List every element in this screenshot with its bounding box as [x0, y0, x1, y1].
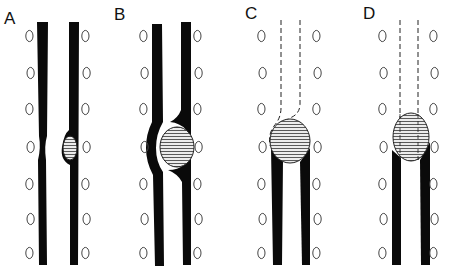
cell-icon: [430, 30, 437, 41]
cell-icon: [194, 30, 201, 41]
cell-icon: [194, 178, 201, 189]
cell-icon: [82, 30, 89, 41]
cell-icon: [313, 247, 320, 258]
cell-icon: [26, 103, 33, 114]
cell-icon: [431, 67, 438, 78]
cell-column-right: [82, 30, 90, 258]
cell-icon: [83, 141, 90, 152]
cell-icon: [379, 247, 386, 258]
tube-wall-right: [300, 148, 310, 265]
cell-column-right: [194, 30, 202, 258]
cell-icon: [140, 103, 147, 114]
tube-wall-left: [37, 22, 48, 265]
cell-icon: [431, 141, 438, 152]
cell-column-left: [379, 30, 387, 258]
cell-icon: [194, 103, 201, 114]
cell-icon: [83, 213, 90, 224]
bolus: [393, 113, 429, 161]
cell-icon: [258, 178, 265, 189]
cell-icon: [140, 247, 147, 258]
cell-icon: [314, 141, 321, 152]
cell-icon: [314, 213, 321, 224]
cell-icon: [27, 213, 34, 224]
cell-icon: [380, 141, 387, 152]
cell-icon: [313, 178, 320, 189]
cell-icon: [379, 30, 386, 41]
cell-icon: [258, 30, 265, 41]
cell-icon: [140, 178, 147, 189]
panel-c: C: [245, 4, 321, 265]
bolus: [63, 136, 77, 160]
cell-icon: [82, 247, 89, 258]
panel-a: A: [4, 9, 90, 265]
dashed-channel-right: [282, 20, 300, 124]
panel-label-a: A: [4, 9, 16, 28]
cell-icon: [430, 247, 437, 258]
cell-icon: [431, 213, 438, 224]
bolus: [270, 119, 310, 163]
cell-icon: [82, 103, 89, 114]
cell-icon: [314, 67, 321, 78]
cell-column-right: [430, 30, 438, 258]
panel-label-b: B: [114, 5, 125, 24]
tube-wall-left: [392, 150, 401, 265]
cell-icon: [313, 30, 320, 41]
cell-icon: [258, 103, 265, 114]
panel-label-c: C: [245, 4, 257, 23]
cell-icon: [379, 178, 386, 189]
cell-icon: [82, 178, 89, 189]
cell-icon: [26, 30, 33, 41]
panel-label-d: D: [363, 4, 375, 23]
cell-icon: [141, 67, 148, 78]
cell-icon: [194, 247, 201, 258]
cell-icon: [195, 67, 202, 78]
cell-icon: [430, 178, 437, 189]
cell-icon: [430, 103, 437, 114]
cell-icon: [258, 247, 265, 258]
cell-icon: [26, 247, 33, 258]
tube-wall-right: [420, 142, 430, 265]
cell-icon: [83, 67, 90, 78]
cell-column-right: [313, 30, 321, 258]
cell-icon: [27, 67, 34, 78]
cell-column-left: [258, 30, 266, 258]
cell-column-left: [26, 30, 34, 258]
panel-b: B: [114, 5, 202, 266]
bolus: [160, 127, 194, 167]
panel-d: D: [363, 4, 438, 265]
cell-icon: [140, 30, 147, 41]
cell-icon: [259, 67, 266, 78]
cell-icon: [313, 103, 320, 114]
cell-icon: [259, 141, 266, 152]
cell-icon: [141, 213, 148, 224]
cell-icon: [195, 141, 202, 152]
tube-wall-left: [271, 148, 283, 265]
cell-icon: [27, 141, 34, 152]
cell-icon: [195, 213, 202, 224]
cell-icon: [259, 213, 266, 224]
cell-icon: [380, 67, 387, 78]
cell-icon: [379, 103, 386, 114]
cell-icon: [380, 213, 387, 224]
bolus-diagram: A B C D: [0, 0, 453, 273]
cell-icon: [26, 178, 33, 189]
